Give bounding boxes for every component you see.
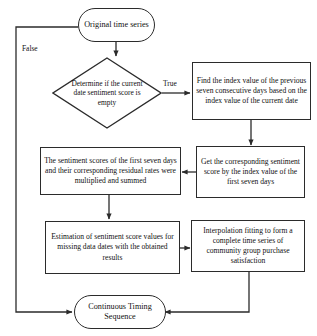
edge-label-true: True: [163, 80, 177, 87]
edge-interpolation-to-end: [165, 272, 249, 312]
node-label-decision-sentiment-empty: Determine if the current date sentiment …: [68, 79, 146, 108]
node-label-estimation-missing-values: Estimation of sentiment score values for…: [49, 232, 176, 262]
node-get-corresponding-score[interactable]: Get the corresponding sentiment score by…: [196, 146, 305, 198]
node-decision-sentiment-empty[interactable]: Determine if the current date sentiment …: [52, 57, 162, 129]
node-find-index-value[interactable]: Find the index value of the previous sev…: [192, 62, 311, 120]
node-continuous-timing-sequence[interactable]: Continuous Timing Sequence: [74, 295, 166, 329]
edge-label-false: False: [22, 45, 38, 52]
node-original-time-series[interactable]: Original time series: [78, 8, 155, 42]
node-label-continuous-timing-sequence: Continuous Timing Sequence: [79, 302, 161, 323]
node-estimation-missing-values[interactable]: Estimation of sentiment score values for…: [45, 221, 180, 274]
node-label-multiply-and-sum: The sentiment scores of the first seven …: [44, 156, 177, 186]
node-label-interpolation-fitting: Interpolation fitting to form a complete…: [195, 226, 301, 266]
node-multiply-and-sum[interactable]: The sentiment scores of the first seven …: [40, 147, 181, 195]
flowchart-canvas: Original time series Determine if the cu…: [0, 0, 317, 336]
node-label-find-index-value: Find the index value of the previous sev…: [196, 76, 307, 106]
node-label-original-time-series: Original time series: [84, 20, 149, 31]
node-label-get-corresponding-score: Get the corresponding sentiment score by…: [200, 157, 301, 187]
node-interpolation-fitting[interactable]: Interpolation fitting to form a complete…: [191, 220, 305, 272]
